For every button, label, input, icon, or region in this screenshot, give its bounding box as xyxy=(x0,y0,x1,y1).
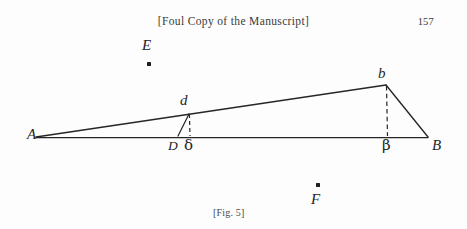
point-dot-F xyxy=(316,183,320,187)
label-point-A: A xyxy=(27,127,36,142)
label-point-d: d xyxy=(180,93,188,108)
label-point-D: D xyxy=(168,139,178,153)
label-point-B: B xyxy=(432,138,441,153)
figure-linework xyxy=(0,0,467,229)
label-point-E: E xyxy=(142,38,151,53)
segment-hypotenuse-A-b xyxy=(36,85,386,137)
manuscript-page: [Foul Copy of the Manuscript] 157 A B D … xyxy=(0,0,467,229)
label-point-F: F xyxy=(311,192,320,207)
point-dot-E xyxy=(147,62,151,66)
segment-side-b-B xyxy=(386,85,428,137)
label-point-beta: β xyxy=(382,138,391,153)
label-point-b: b xyxy=(378,66,386,81)
segment-altitude-d-delta xyxy=(189,114,190,136)
figure-caption: [Fig. 5] xyxy=(213,207,245,218)
figure-region: A B D δ β b d E F xyxy=(0,0,467,229)
segment-altitude-b-beta xyxy=(387,86,388,136)
label-point-delta: δ xyxy=(184,138,193,153)
segment-oblique-D-d xyxy=(178,114,189,136)
